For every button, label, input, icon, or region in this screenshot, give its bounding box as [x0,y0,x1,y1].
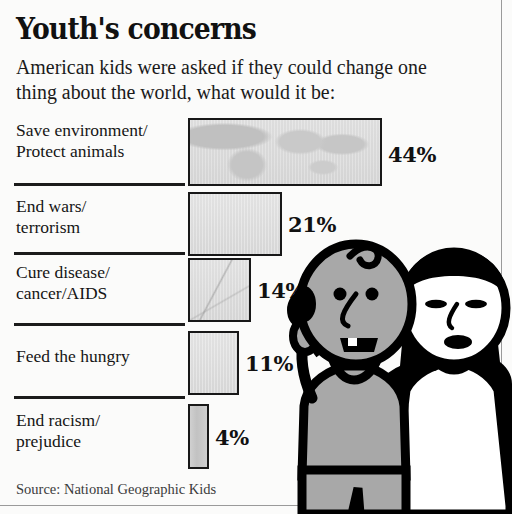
bar-texture [190,406,207,467]
row-label-line1: Feed the hungry [16,346,184,367]
girl-right-eye [465,300,487,308]
chart-bar [188,118,382,186]
row-label: Save environment/Protect animals [16,120,184,162]
row-label: Cure disease/cancer/AIDS [16,262,184,304]
row-label: End wars/terrorism [16,196,184,238]
boy-teeth [348,338,357,346]
bar-value-label: 21% [288,212,336,237]
boy-ear [292,286,316,322]
row-label-line1: End racism/ [16,410,184,431]
chart-bar [188,404,209,469]
girl-left-eye [425,300,447,308]
page-subtitle: American kids were asked if they could c… [16,55,472,105]
source-note: Source: National Geographic Kids [16,481,216,498]
chart-bar [188,258,251,322]
row-divider [14,323,185,326]
row-label-line2: cancer/AIDS [16,283,184,304]
girl-mouth [444,335,472,349]
row-label-line1: Cure disease/ [16,262,184,283]
bar-texture [190,120,380,184]
infographic-root: Youth's concerns American kids were aske… [0,0,512,514]
two-kids-illustration [284,238,512,514]
bar-value-label: 44% [388,142,436,167]
row-label-line1: End wars/ [16,196,184,217]
boy-right-eye [366,288,379,301]
row-label: Feed the hungry [16,346,184,367]
boy-mouth [340,338,378,352]
bar-texture [190,194,280,254]
boy-left-eye [334,288,347,301]
kids-illustration-svg [284,238,512,514]
row-label-line2: prejudice [16,431,184,452]
bar-texture [190,333,237,393]
row-divider [14,252,185,255]
bar-texture [190,260,249,320]
page-title: Youth's concerns [16,12,256,46]
chart-bar [188,192,282,256]
boy-shorts [302,470,406,514]
row-label-line2: Protect animals [16,141,184,162]
row-divider [14,183,185,186]
row-label: End racism/prejudice [16,410,184,452]
row-label-line1: Save environment/ [16,120,184,141]
row-divider [14,396,185,399]
row-label-line2: terrorism [16,217,184,238]
bar-value-label: 4% [215,425,249,450]
chart-bar [188,331,239,395]
